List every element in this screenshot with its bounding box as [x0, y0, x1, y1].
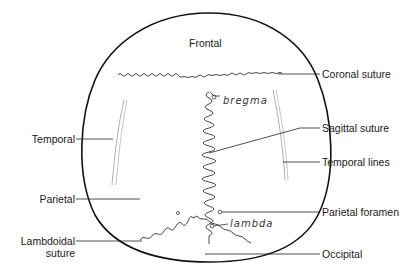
skull-diagram: Frontal Coronal suture Sagittal suture T…: [0, 0, 418, 273]
parietal-foramen-right: [218, 210, 222, 214]
label-temporal-lines: Temporal lines: [322, 156, 390, 168]
temporal-line-left-a: [112, 100, 124, 185]
label-bregma: bregma: [223, 95, 268, 106]
coronal-suture: [118, 73, 282, 78]
leader-sagittal: [209, 128, 300, 153]
label-lambdoidal: Lambdoidal: [21, 235, 75, 247]
temporal-line-right-b: [276, 90, 288, 180]
label-temporal: Temporal: [32, 133, 75, 145]
label-lambdoidal-suture: suture: [46, 247, 75, 259]
label-coronal-suture: Coronal suture: [322, 68, 391, 80]
label-parietal-foramen: Parietal foramen: [322, 206, 399, 218]
parietal-foramen-left: [177, 212, 180, 215]
label-frontal: Frontal: [189, 37, 222, 49]
skull-outline: [82, 13, 331, 262]
label-parietal: Parietal: [39, 193, 75, 205]
label-sagittal-suture: Sagittal suture: [322, 122, 389, 134]
label-lambda: lambda: [230, 218, 273, 229]
label-occipital: Occipital: [322, 248, 362, 260]
